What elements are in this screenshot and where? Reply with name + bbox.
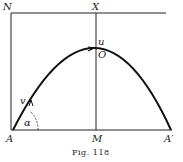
label-X: X (91, 1, 100, 12)
trajectory-parabola (13, 48, 171, 130)
label-M: M (91, 133, 103, 144)
label-A: A (5, 133, 13, 144)
label-v: v (20, 95, 26, 106)
label-N: N (2, 1, 13, 12)
angle-arc-alpha (30, 111, 38, 130)
label-O: O (98, 49, 106, 60)
projectile-diagram: N X u O v α A M A′ Fig. 118 (0, 0, 183, 162)
figure-caption: Fig. 118 (72, 148, 110, 157)
label-u: u (98, 36, 104, 47)
label-A-prime: A′ (163, 133, 174, 144)
label-alpha: α (24, 117, 31, 128)
